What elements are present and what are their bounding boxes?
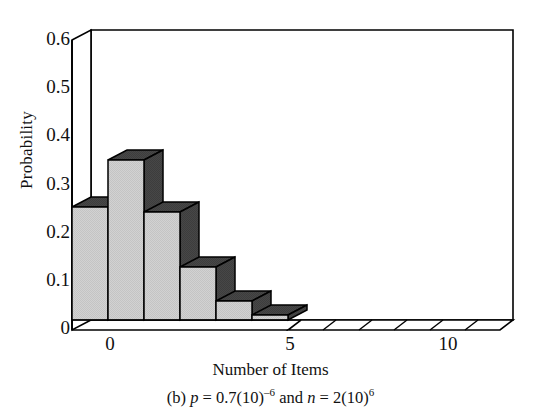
floor-plane-tail — [288, 320, 513, 330]
caption-exponent-1: –6 — [264, 386, 275, 398]
x-axis-label: Number of Items — [0, 360, 541, 380]
caption-eq2: = 2(10) — [315, 388, 368, 407]
chart-canvas — [0, 0, 541, 419]
caption-prefix: (b) — [167, 388, 190, 407]
caption-conjunction: and — [275, 388, 307, 407]
caption-exponent-2: 6 — [369, 386, 375, 398]
figure-caption: (b) p = 0.7(10)–6 and n = 2(10)6 — [0, 386, 541, 408]
figure-root: Probability 0.6 0.5 0.4 0.3 0.2 0.1 0 0 … — [0, 0, 541, 419]
caption-eq1: = 0.7(10) — [198, 388, 264, 407]
